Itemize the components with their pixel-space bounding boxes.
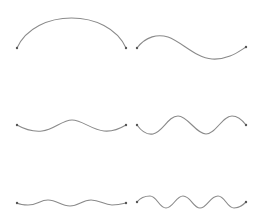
wave-2-end-point: [245, 46, 247, 48]
wave-2: [136, 36, 247, 59]
wave-1: [16, 18, 127, 49]
waves-svg: [0, 0, 262, 223]
wave-4-curve: [137, 116, 246, 134]
wave-3-start-point: [16, 124, 18, 126]
wave-3-curve: [17, 120, 126, 131]
wave-6-start-point: [136, 201, 138, 203]
wave-6-end-point: [245, 201, 247, 203]
wave-5-start-point: [16, 202, 18, 204]
wave-4-start-point: [136, 124, 138, 126]
wave-6: [136, 196, 247, 208]
wave-1-end-point: [125, 47, 127, 49]
wave-4: [136, 116, 247, 134]
wave-5: [16, 200, 127, 206]
wave-5-curve: [17, 200, 126, 206]
wave-1-curve: [17, 18, 126, 48]
wave-4-end-point: [245, 124, 247, 126]
wave-3: [16, 120, 127, 131]
wave-diagram-canvas: [0, 0, 262, 223]
wave-5-end-point: [125, 202, 127, 204]
wave-2-start-point: [136, 47, 138, 49]
wave-2-curve: [137, 36, 246, 59]
wave-3-end-point: [125, 124, 127, 126]
wave-6-curve: [137, 196, 246, 208]
wave-1-start-point: [16, 47, 18, 49]
